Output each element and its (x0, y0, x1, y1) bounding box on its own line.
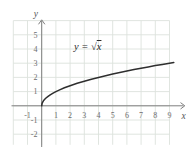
x-tick-label: 7 (139, 111, 143, 120)
x-axis-label: x (180, 111, 186, 121)
y-tick-label: 1 (34, 87, 38, 96)
x-tick-label: 9 (168, 111, 172, 120)
plot-canvas: -112345678954321-1-2xy (0, 0, 195, 154)
x-tick-label: 6 (125, 111, 129, 120)
y-tick-label: 5 (34, 31, 38, 40)
x-tick-label: 3 (82, 111, 86, 120)
sqrt-curve (42, 63, 174, 106)
equation-label: y = √x (74, 41, 101, 52)
equation-lhs: y = (74, 41, 91, 52)
y-tick-label: -1 (31, 116, 38, 125)
y-tick-label: -2 (31, 130, 38, 139)
y-tick-label: 3 (34, 59, 38, 68)
figure-sqrt-plot: -112345678954321-1-2xy y = √x (0, 0, 195, 154)
x-tick-label: 8 (153, 111, 157, 120)
x-tick-label: -1 (24, 111, 31, 120)
x-tick-label: 5 (111, 111, 115, 120)
y-tick-label: 2 (34, 73, 38, 82)
x-tick-label: 4 (97, 111, 101, 120)
equation-radicand: x (97, 41, 102, 52)
y-axis-label: y (33, 9, 39, 19)
y-tick-label: 4 (34, 45, 38, 54)
x-tick-label: 2 (68, 111, 72, 120)
x-tick-label: 1 (54, 111, 58, 120)
